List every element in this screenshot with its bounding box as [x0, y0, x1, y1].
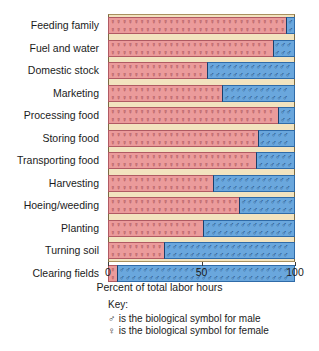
- x-axis-title: Percent of total labor hours: [0, 281, 319, 293]
- figure-caption-fragment: [20, 336, 200, 346]
- y-axis-label-domestic-stock: Domestic stock: [0, 62, 103, 79]
- bar-row: ♀♀♀♀♀♀♀♀♀♀♀♀♀♀♀♀♀♀♀♀♀♀♀♀♀♀♀♀♀♀♀♀♀♀♀♀♀♀♀♀…: [108, 197, 295, 214]
- bar-segment-female: ♀♀♀♀♀♀♀♀♀♀♀♀♀♀♀♀♀♀♀♀♀♀♀♀♀♀♀♀♀♀♀♀♀♀♀♀♀♀♀♀…: [108, 175, 213, 192]
- bar-segment-male: ♂♂♂♂♂♂♂♂♂♂♂♂♂♂♂♂♂♂♂♂♂♂♂♂♂♂♂♂♂♂♂♂♂♂♂♂♂♂♂♂…: [203, 220, 295, 237]
- bar-row: ♀♀♀♀♀♀♀♀♀♀♀♀♀♀♀♀♀♀♀♀♀♀♀♀♀♀♀♀♀♀♀♀♀♀♀♀♀♀♀♀…: [108, 220, 295, 237]
- bar-segment-female: ♀♀♀♀♀♀♀♀♀♀♀♀♀♀♀♀♀♀♀♀♀♀♀♀♀♀♀♀♀♀♀♀♀♀♀♀♀♀♀♀…: [108, 17, 286, 34]
- y-axis-label-transporting-food: Transporting food: [0, 152, 103, 169]
- bar-segment-female: ♀♀♀♀♀♀♀♀♀♀♀♀♀♀♀♀♀♀♀♀♀♀♀♀♀♀♀♀♀♀♀♀♀♀♀♀♀♀♀♀…: [108, 152, 256, 169]
- bar-row: ♀♀♀♀♀♀♀♀♀♀♀♀♀♀♀♀♀♀♀♀♀♀♀♀♀♀♀♀♀♀♀♀♀♀♀♀♀♀♀♀…: [108, 130, 295, 147]
- y-axis-label-fuel-and-water: Fuel and water: [0, 40, 103, 57]
- bar-segment-female: ♀♀♀♀♀♀♀♀♀♀♀♀♀♀♀♀♀♀♀♀♀♀♀♀♀♀♀♀♀♀♀♀♀♀♀♀♀♀♀♀…: [108, 242, 164, 259]
- bar-segment-male: ♂♂♂♂♂♂♂♂♂♂♂♂♂♂♂♂♂♂♂♂♂♂♂♂♂♂♂♂♂♂♂♂♂♂♂♂♂♂♂♂…: [239, 197, 295, 214]
- y-axis-label-planting: Planting: [0, 220, 103, 237]
- y-axis-label-marketing: Marketing: [0, 85, 103, 102]
- bar-segment-male: ♂♂♂♂♂♂♂♂♂♂♂♂♂♂♂♂♂♂♂♂♂♂♂♂♂♂♂♂♂♂♂♂♂♂♂♂♂♂♂♂…: [273, 40, 295, 57]
- bar-segment-female: ♀♀♀♀♀♀♀♀♀♀♀♀♀♀♀♀♀♀♀♀♀♀♀♀♀♀♀♀♀♀♀♀♀♀♀♀♀♀♀♀…: [108, 197, 239, 214]
- bar-row: ♀♀♀♀♀♀♀♀♀♀♀♀♀♀♀♀♀♀♀♀♀♀♀♀♀♀♀♀♀♀♀♀♀♀♀♀♀♀♀♀…: [108, 17, 295, 34]
- bar-segment-female: ♀♀♀♀♀♀♀♀♀♀♀♀♀♀♀♀♀♀♀♀♀♀♀♀♀♀♀♀♀♀♀♀♀♀♀♀♀♀♀♀…: [108, 130, 258, 147]
- y-axis-label-storing-food: Storing food: [0, 130, 103, 147]
- bar-row: ♀♀♀♀♀♀♀♀♀♀♀♀♀♀♀♀♀♀♀♀♀♀♀♀♀♀♀♀♀♀♀♀♀♀♀♀♀♀♀♀…: [108, 62, 295, 79]
- bar-segment-male: ♂♂♂♂♂♂♂♂♂♂♂♂♂♂♂♂♂♂♂♂♂♂♂♂♂♂♂♂♂♂♂♂♂♂♂♂♂♂♂♂…: [256, 152, 295, 169]
- key-line-male: ♂ is the biological symbol for male: [108, 313, 319, 326]
- x-axis-tick-labels: 050100: [88, 266, 315, 280]
- key-female-text: is the biological symbol for female: [119, 325, 269, 336]
- bar-segment-male: ♂♂♂♂♂♂♂♂♂♂♂♂♂♂♂♂♂♂♂♂♂♂♂♂♂♂♂♂♂♂♂♂♂♂♂♂♂♂♂♂…: [222, 85, 295, 102]
- bar-segment-female: ♀♀♀♀♀♀♀♀♀♀♀♀♀♀♀♀♀♀♀♀♀♀♀♀♀♀♀♀♀♀♀♀♀♀♀♀♀♀♀♀…: [108, 220, 203, 237]
- bar-row: ♀♀♀♀♀♀♀♀♀♀♀♀♀♀♀♀♀♀♀♀♀♀♀♀♀♀♀♀♀♀♀♀♀♀♀♀♀♀♀♀…: [108, 175, 295, 192]
- bar-segment-male: ♂♂♂♂♂♂♂♂♂♂♂♂♂♂♂♂♂♂♂♂♂♂♂♂♂♂♂♂♂♂♂♂♂♂♂♂♂♂♂♂…: [278, 107, 295, 124]
- bar-segment-male: ♂♂♂♂♂♂♂♂♂♂♂♂♂♂♂♂♂♂♂♂♂♂♂♂♂♂♂♂♂♂♂♂♂♂♂♂♂♂♂♂…: [207, 62, 295, 79]
- bar-segment-female: ♀♀♀♀♀♀♀♀♀♀♀♀♀♀♀♀♀♀♀♀♀♀♀♀♀♀♀♀♀♀♀♀♀♀♀♀♀♀♀♀…: [108, 62, 207, 79]
- bar-segment-female: ♀♀♀♀♀♀♀♀♀♀♀♀♀♀♀♀♀♀♀♀♀♀♀♀♀♀♀♀♀♀♀♀♀♀♀♀♀♀♀♀…: [108, 107, 278, 124]
- key-title: Key:: [108, 299, 319, 312]
- y-axis-label-harvesting: Harvesting: [0, 175, 103, 192]
- bar-segment-male: ♂♂♂♂♂♂♂♂♂♂♂♂♂♂♂♂♂♂♂♂♂♂♂♂♂♂♂♂♂♂♂♂♂♂♂♂♂♂♂♂…: [258, 130, 295, 147]
- bar-row: ♀♀♀♀♀♀♀♀♀♀♀♀♀♀♀♀♀♀♀♀♀♀♀♀♀♀♀♀♀♀♀♀♀♀♀♀♀♀♀♀…: [108, 152, 295, 169]
- bar-row: ♀♀♀♀♀♀♀♀♀♀♀♀♀♀♀♀♀♀♀♀♀♀♀♀♀♀♀♀♀♀♀♀♀♀♀♀♀♀♀♀…: [108, 40, 295, 57]
- bar-segment-female: ♀♀♀♀♀♀♀♀♀♀♀♀♀♀♀♀♀♀♀♀♀♀♀♀♀♀♀♀♀♀♀♀♀♀♀♀♀♀♀♀…: [108, 85, 222, 102]
- y-axis-label-hoeing-weeding: Hoeing/weeding: [0, 197, 103, 214]
- bar-row: ♀♀♀♀♀♀♀♀♀♀♀♀♀♀♀♀♀♀♀♀♀♀♀♀♀♀♀♀♀♀♀♀♀♀♀♀♀♀♀♀…: [108, 107, 295, 124]
- bar-row: ♀♀♀♀♀♀♀♀♀♀♀♀♀♀♀♀♀♀♀♀♀♀♀♀♀♀♀♀♀♀♀♀♀♀♀♀♀♀♀♀…: [108, 85, 295, 102]
- y-axis-label-turning-soil: Turning soil: [0, 242, 103, 259]
- bar-segment-male: ♂♂♂♂♂♂♂♂♂♂♂♂♂♂♂♂♂♂♂♂♂♂♂♂♂♂♂♂♂♂♂♂♂♂♂♂♂♂♂♂…: [213, 175, 295, 192]
- figure-stacked-bar-chart: Feeding familyFuel and waterDomestic sto…: [0, 0, 319, 351]
- bar-segment-male: ♂♂♂♂♂♂♂♂♂♂♂♂♂♂♂♂♂♂♂♂♂♂♂♂♂♂♂♂♂♂♂♂♂♂♂♂♂♂♂♂…: [164, 242, 295, 259]
- bar-segment-female: ♀♀♀♀♀♀♀♀♀♀♀♀♀♀♀♀♀♀♀♀♀♀♀♀♀♀♀♀♀♀♀♀♀♀♀♀♀♀♀♀…: [108, 40, 273, 57]
- key-male-text: is the biological symbol for male: [119, 313, 261, 324]
- y-axis-label-feeding-family: Feeding family: [0, 17, 103, 34]
- x-tick-label-0: 0: [88, 266, 128, 278]
- chart-key: Key: ♂ is the biological symbol for male…: [108, 299, 319, 338]
- bar-rows-container: ♀♀♀♀♀♀♀♀♀♀♀♀♀♀♀♀♀♀♀♀♀♀♀♀♀♀♀♀♀♀♀♀♀♀♀♀♀♀♀♀…: [108, 14, 295, 262]
- bar-segment-male: ♂♂♂♂♂♂♂♂♂♂♂♂♂♂♂♂♂♂♂♂♂♂♂♂: [286, 17, 295, 34]
- bar-row: ♀♀♀♀♀♀♀♀♀♀♀♀♀♀♀♀♀♀♀♀♀♀♀♀♀♀♀♀♀♀♀♀♀♀♀♀♀♀♀♀…: [108, 242, 295, 259]
- y-axis-label-processing-food: Processing food: [0, 107, 103, 124]
- male-symbol-icon: ♂: [108, 313, 116, 326]
- x-tick-label-50: 50: [182, 266, 222, 278]
- y-axis-category-labels: Feeding familyFuel and waterDomestic sto…: [0, 14, 103, 262]
- x-tick-label-100: 100: [275, 266, 315, 278]
